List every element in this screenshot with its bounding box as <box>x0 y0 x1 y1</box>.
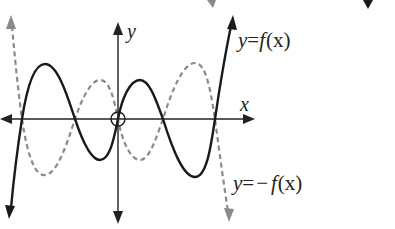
graph-canvas: y x y=f(x) y=−f(x) <box>0 0 395 229</box>
solid-curve-up-arrow-icon <box>227 15 237 30</box>
dashed-curve-down-arrow-icon <box>224 208 234 222</box>
solid-curve-down-arrow-icon <box>5 205 15 219</box>
y-axis-down-arrow-icon <box>113 211 123 224</box>
curve-negative-f-label: y=−f(x) <box>231 171 302 195</box>
cropped-black-arrow-icon <box>363 0 373 9</box>
x-axis <box>0 114 255 124</box>
cropped-gray-arrow-icon <box>207 0 216 8</box>
x-axis-label: x <box>239 93 249 115</box>
y-axis-up-arrow-icon <box>113 22 123 35</box>
curve-f <box>11 26 231 208</box>
x-axis-left-arrow-icon <box>0 114 12 124</box>
y-axis-label: y <box>125 20 136 43</box>
x-axis-right-arrow-icon <box>243 114 255 124</box>
dashed-curve-up-arrow-icon <box>6 15 16 29</box>
curve-f-label: y=f(x) <box>236 28 291 52</box>
